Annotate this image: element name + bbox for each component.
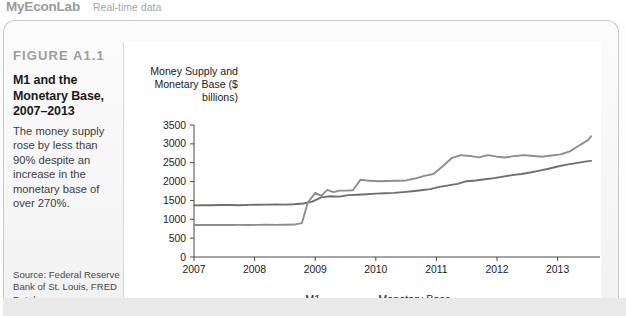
svg-text:3000: 3000: [163, 138, 186, 149]
figure-screenshot: MyEconLab Real-time data FIGURE A1.1 M1 …: [0, 0, 626, 316]
svg-text:1500: 1500: [163, 195, 186, 206]
svg-text:3500: 3500: [163, 120, 186, 131]
svg-text:2010: 2010: [364, 264, 387, 275]
figure-title: M1 and the Monetary Base, 2007–2013: [13, 73, 121, 120]
line-chart: 0500100015002000250030003500200720082009…: [123, 41, 601, 293]
svg-text:2009: 2009: [304, 264, 327, 275]
page-bottom-strip: [0, 298, 626, 316]
svg-text:2500: 2500: [163, 157, 186, 168]
figure-number-label: FIGURE A1.1: [13, 48, 105, 63]
figure-container: FIGURE A1.1 M1 and the Monetary Base, 20…: [3, 20, 619, 298]
svg-text:500: 500: [169, 233, 187, 244]
brand-subtitle: Real-time data: [93, 1, 161, 13]
svg-text:2007: 2007: [182, 264, 205, 275]
page-bottom-left-margin: [0, 298, 3, 316]
figure-description: The money supply rose by less than 90% d…: [13, 124, 123, 210]
svg-text:2012: 2012: [485, 264, 508, 275]
svg-text:1000: 1000: [163, 214, 186, 225]
svg-text:2000: 2000: [163, 176, 186, 187]
svg-text:2013: 2013: [546, 264, 569, 275]
svg-text:0: 0: [180, 252, 186, 263]
svg-text:2011: 2011: [425, 264, 448, 275]
myeconlab-header: MyEconLab Real-time data: [0, 0, 626, 20]
brand-name: MyEconLab: [6, 0, 80, 14]
svg-text:2008: 2008: [243, 264, 266, 275]
figure-source-note: Source: Federal Reserve Bank of St. Loui…: [13, 269, 125, 298]
